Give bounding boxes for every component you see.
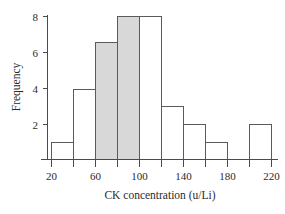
bar-60-80-fill [96, 43, 118, 160]
x-axis-title: CK concentration (u/Li) [104, 189, 215, 202]
histogram-plot: 8 6 4 2 20 60 100 140 180 220 [0, 0, 285, 214]
x-tick-label-60: 60 [90, 170, 102, 182]
bar-200-220 [250, 125, 272, 160]
x-tick-label-100: 100 [131, 170, 148, 182]
y-tick-label-6: 6 [33, 47, 39, 59]
bar-80-100-fill [118, 17, 140, 160]
y-axis-title: Frequency [10, 62, 23, 111]
bar-100-120 [140, 17, 162, 160]
y-axis-ticks [43, 17, 48, 125]
x-axis-ticks [52, 160, 272, 167]
bar-160-180 [206, 143, 228, 160]
x-tick-label-180: 180 [219, 170, 236, 182]
histogram-bars [52, 17, 272, 160]
x-tick-label-220: 220 [263, 170, 280, 182]
x-axis-tick-labels: 20 60 100 140 180 220 [46, 170, 280, 182]
bar-140-160 [184, 125, 206, 160]
bar-20-40 [52, 143, 74, 160]
y-tick-label-4: 4 [33, 83, 39, 95]
x-tick-label-20: 20 [46, 170, 58, 182]
bar-120-140 [162, 107, 184, 160]
bar-40-60 [74, 90, 96, 160]
y-tick-label-8: 8 [33, 11, 39, 23]
y-tick-label-2: 2 [33, 119, 39, 131]
y-axis-tick-labels: 8 6 4 2 [33, 11, 39, 131]
x-tick-label-140: 140 [175, 170, 192, 182]
histogram-figure: 8 6 4 2 20 60 100 140 180 220 [0, 0, 285, 214]
